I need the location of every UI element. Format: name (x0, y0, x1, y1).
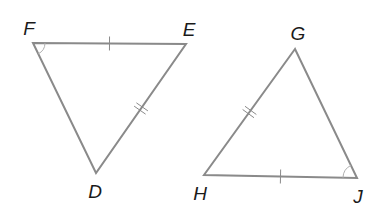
vertex-label-g: G (291, 24, 306, 43)
vertex-label-d: D (88, 182, 102, 201)
angle-arc (38, 43, 45, 54)
vertex-label-j: J (353, 187, 363, 206)
vertex-label-e: E (183, 20, 196, 39)
angle-arc (343, 165, 351, 177)
triangle-def-outline (33, 43, 186, 173)
vertex-label-f: F (23, 19, 35, 38)
vertex-label-h: H (193, 184, 207, 203)
triangle-ghj-outline (204, 49, 357, 178)
congruence-tick (245, 106, 256, 114)
triangle-ghj (204, 49, 357, 183)
congruence-tick (243, 110, 254, 118)
congruence-tick (134, 106, 145, 114)
triangle-def (33, 37, 186, 173)
diagram-canvas: F E D G H J (0, 0, 386, 216)
congruence-tick (136, 103, 147, 111)
